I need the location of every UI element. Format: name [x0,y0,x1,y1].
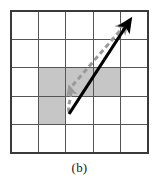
shaded-cell-c1r2 [38,68,65,96]
shaded-cell-c1r3 [38,96,65,124]
grid-vector-diagram [0,0,159,184]
figure-panel-b: (b) [0,0,159,184]
figure-caption: (b) [0,160,159,176]
